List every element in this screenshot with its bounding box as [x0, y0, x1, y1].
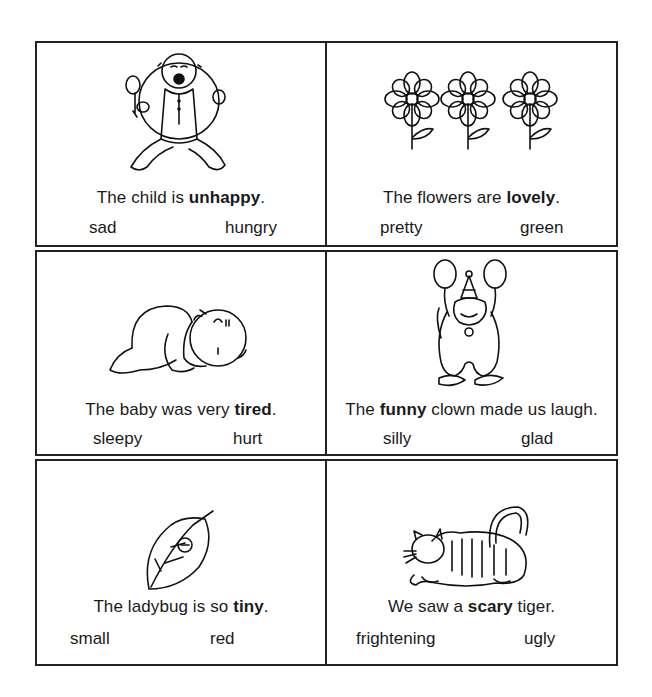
choice-option[interactable]: hungry: [225, 218, 277, 238]
sentence-text: We saw a: [388, 597, 468, 616]
choice-option[interactable]: frightening: [356, 629, 435, 649]
sentence-text: The baby was very: [85, 400, 234, 419]
sentence-text: tiger.: [513, 597, 555, 616]
target-word: scary: [468, 597, 513, 616]
sentence: The child is unhappy.: [37, 188, 325, 208]
sentence-text: The ladybug is so: [93, 597, 233, 616]
crying-child-icon: [37, 49, 325, 177]
choice-option[interactable]: glad: [521, 429, 553, 449]
sleeping-baby-icon: [37, 294, 325, 378]
choice-option[interactable]: hurt: [233, 429, 262, 449]
choice-option[interactable]: red: [210, 629, 235, 649]
choice-option[interactable]: silly: [383, 429, 411, 449]
target-word: unhappy: [189, 188, 261, 207]
sentence: The ladybug is so tiny.: [37, 597, 325, 617]
sentence-text: .: [260, 188, 265, 207]
sentence-text: The child is: [97, 188, 189, 207]
choice-option[interactable]: sleepy: [93, 429, 142, 449]
sentence-text: The: [345, 400, 379, 419]
sentence: The flowers are lovely.: [327, 188, 616, 208]
card-tiny: The ladybug is so tiny. small red: [35, 459, 327, 666]
choice-option[interactable]: sad: [89, 218, 116, 238]
sentence-text: .: [264, 597, 269, 616]
sentence-text: .: [555, 188, 560, 207]
choice-option[interactable]: green: [520, 218, 563, 238]
crouching-tiger-icon: [327, 497, 616, 593]
clown-with-balloons-icon: [327, 258, 616, 394]
card-unhappy: The child is unhappy. sad hungry: [35, 41, 327, 247]
sentence-text: The flowers are: [383, 188, 506, 207]
sentence-text: clown made us laugh.: [426, 400, 597, 419]
card-lovely: The flowers are lovely. pretty green: [325, 41, 618, 247]
target-word: tired: [235, 400, 272, 419]
sentence-text: .: [272, 400, 277, 419]
sentence: The baby was very tired.: [37, 400, 325, 420]
card-funny: The funny clown made us laugh. silly gla…: [325, 250, 618, 456]
choice-option[interactable]: pretty: [380, 218, 423, 238]
target-word: lovely: [506, 188, 555, 207]
choice-option[interactable]: small: [70, 629, 110, 649]
ladybug-on-leaf-icon: [37, 507, 325, 593]
card-tired: The baby was very tired. sleepy hurt: [35, 250, 327, 456]
target-word: tiny: [233, 597, 264, 616]
card-scary: We saw a scary tiger. frightening ugly: [325, 459, 618, 666]
sentence: We saw a scary tiger.: [327, 597, 616, 617]
choice-option[interactable]: ugly: [524, 629, 555, 649]
target-word: funny: [380, 400, 427, 419]
sentence: The funny clown made us laugh.: [327, 400, 616, 420]
three-flowers-icon: [327, 71, 616, 153]
